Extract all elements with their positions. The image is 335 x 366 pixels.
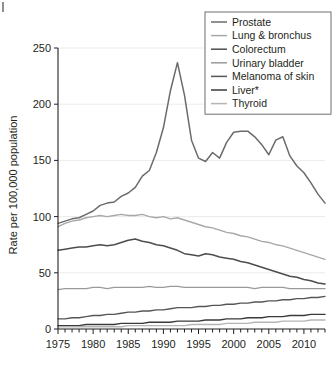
x-tick-label: 2000 — [221, 338, 245, 350]
line-chart: 0501001502002501975198019851990199520002… — [0, 0, 335, 366]
y-tick-label: 0 — [45, 323, 51, 335]
legend-label: Urinary bladder — [232, 57, 304, 69]
y-tick-label: 250 — [33, 42, 51, 54]
legend-label: Lung & bronchus — [232, 29, 311, 41]
x-tick-label: 2005 — [257, 338, 281, 350]
legend-label: Colorectum — [232, 43, 286, 55]
x-tick-label: 1990 — [151, 338, 175, 350]
y-tick-label: 200 — [33, 98, 51, 110]
legend-label: Liver* — [232, 84, 259, 96]
chart-legend[interactable]: ProstateLung & bronchusColorectumUrinary… — [205, 12, 331, 114]
x-tick-label: 1995 — [186, 338, 210, 350]
x-tick-label: 1980 — [81, 338, 105, 350]
y-tick-label: 150 — [33, 154, 51, 166]
x-tick-label: 1985 — [116, 338, 140, 350]
y-axis-title: Rate per 100,000 population — [7, 116, 19, 255]
legend-label: Melanoma of skin — [232, 70, 314, 82]
legend-label: Prostate — [232, 16, 271, 28]
chart-figure: 0501001502002501975198019851990199520002… — [0, 0, 335, 366]
y-tick-label: 50 — [39, 267, 51, 279]
x-tick-label: 1975 — [46, 338, 70, 350]
x-tick-label: 2010 — [292, 338, 316, 350]
legend-label: Thyroid — [232, 97, 267, 109]
y-tick-label: 100 — [33, 211, 51, 223]
